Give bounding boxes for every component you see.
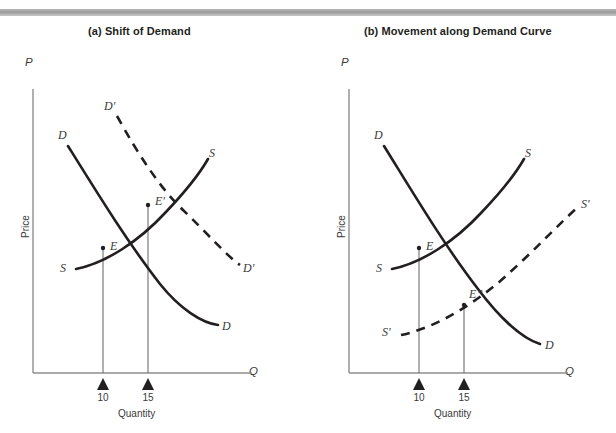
panel-b-demand-lower-label: D bbox=[544, 338, 554, 352]
panel-a-demand-shifted-upper-label: D' bbox=[103, 99, 116, 113]
panel-b-tick-marker-15 bbox=[458, 378, 470, 390]
panel-a-equilibrium-e-point bbox=[101, 246, 105, 250]
panel-b-supply-upper-label: S bbox=[525, 146, 531, 160]
panel-a-equilibrium-e-prime-point bbox=[146, 203, 150, 207]
panel-b-equilibrium-e-double-prime-label: E” bbox=[468, 287, 483, 301]
panel-a-tick-marker-10 bbox=[97, 378, 109, 390]
panel-b-tick-marker-10 bbox=[413, 378, 425, 390]
panel-b-supply-shifted-curve bbox=[401, 207, 578, 335]
panel-b-supply-curve bbox=[392, 159, 524, 269]
panel-b-demand-upper-label: D bbox=[373, 128, 383, 142]
panel-b-demand-curve bbox=[384, 146, 540, 344]
panel-a-tick-marker-15 bbox=[142, 378, 154, 390]
panel-a-demand-shifted-lower-label: D' bbox=[242, 261, 255, 275]
panel-b-equilibrium-e-label: E bbox=[425, 239, 434, 253]
panel-a-supply-upper-label: S bbox=[209, 146, 215, 160]
panel-b-plot: D S S' S S' D E E” bbox=[316, 33, 616, 433]
panel-a-demand-upper-label: D bbox=[57, 128, 67, 142]
panel-b-supply-shifted-upper-label: S' bbox=[581, 197, 590, 211]
top-divider-rule bbox=[0, 9, 616, 16]
panel-b-equilibrium-e-double-prime-point bbox=[462, 303, 466, 307]
panel-a-equilibrium-e-label: E bbox=[109, 239, 118, 253]
panel-a-supply-lower-label: S bbox=[60, 261, 66, 275]
panel-a-supply-curve bbox=[76, 159, 208, 269]
panel-a-plot: D D' S S D D' E E' bbox=[0, 33, 300, 433]
figure-root: (a) Shift of Demand P Price Q Quantity 1… bbox=[0, 0, 616, 433]
panel-b-supply-lower-label: S bbox=[376, 261, 382, 275]
panel-a-demand-lower-label: D bbox=[221, 319, 231, 333]
panel-b-equilibrium-e-point bbox=[417, 246, 421, 250]
panel-a-demand-shifted-curve bbox=[117, 116, 240, 265]
panel-b-supply-shifted-lower-label: S' bbox=[382, 325, 391, 339]
panel-a-equilibrium-e-prime-label: E' bbox=[154, 194, 165, 208]
